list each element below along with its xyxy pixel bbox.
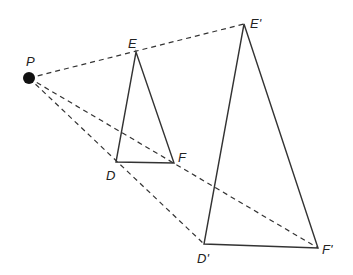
ray-p-e-prime [29, 24, 244, 78]
label-d: D [106, 168, 115, 183]
center-point-p [23, 72, 35, 84]
label-f: F [178, 150, 187, 165]
label-f-prime: F' [322, 242, 333, 257]
dilation-diagram: P E F D E' D' F' [0, 0, 353, 275]
label-d-prime: D' [197, 251, 209, 266]
diagram-canvas: P E F D E' D' F' [0, 0, 353, 275]
triangle-d-prime-e-prime-f-prime [204, 24, 318, 248]
label-p: P [26, 54, 35, 69]
label-e: E [128, 36, 137, 51]
triangle-def [116, 52, 174, 163]
label-e-prime: E' [250, 16, 262, 31]
